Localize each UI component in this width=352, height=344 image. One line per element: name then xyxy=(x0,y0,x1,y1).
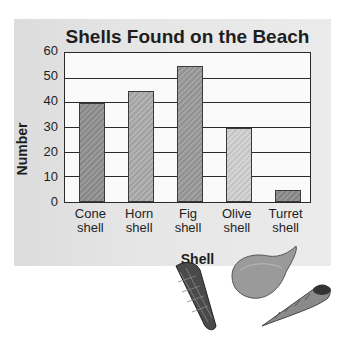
x-axis-label: Shell xyxy=(14,251,331,267)
y-tick-label: 40 xyxy=(28,94,58,108)
x-tick-label-line: Turret xyxy=(261,207,311,221)
x-tick-label-line: shell xyxy=(65,221,115,235)
x-tick-label: Turretshell xyxy=(261,207,311,235)
x-tick-label-line: Horn xyxy=(114,207,164,221)
plot-area xyxy=(64,52,311,203)
turret-shell-icon xyxy=(262,285,331,326)
x-tick-label-line: shell xyxy=(114,221,164,235)
chart-title: Shells Found on the Beach xyxy=(14,26,331,48)
y-tick-label: 0 xyxy=(28,195,58,209)
x-tick-label: Figshell xyxy=(163,207,213,235)
x-tick-label-line: Cone xyxy=(65,207,115,221)
cone-shell-icon xyxy=(176,263,216,330)
x-tick-label: Coneshell xyxy=(65,207,115,235)
bar-cone-shell xyxy=(79,103,105,202)
x-tick-label-line: shell xyxy=(261,221,311,235)
x-tick-label-line: Olive xyxy=(212,207,262,221)
y-tick-label: 20 xyxy=(28,145,58,159)
x-tick-label-line: Fig xyxy=(163,207,213,221)
y-tick-label: 50 xyxy=(28,69,58,83)
bar-olive-shell xyxy=(226,128,252,202)
y-tick-label: 60 xyxy=(28,44,58,58)
bar-turret-shell xyxy=(275,190,301,202)
y-tick-label: 10 xyxy=(28,170,58,184)
chart-panel: Shells Found on the Beach Number 0102030… xyxy=(14,19,331,266)
x-tick-label-line: shell xyxy=(163,221,213,235)
y-tick-label: 30 xyxy=(28,120,58,134)
bar-horn-shell xyxy=(128,91,154,202)
x-tick-label: Hornshell xyxy=(114,207,164,235)
bar-fig-shell xyxy=(177,66,203,202)
x-tick-label-line: shell xyxy=(212,221,262,235)
x-tick-label: Oliveshell xyxy=(212,207,262,235)
